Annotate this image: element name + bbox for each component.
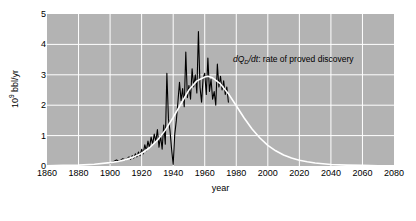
data-curves bbox=[47, 14, 394, 166]
series-line bbox=[110, 32, 228, 165]
x-tick-label: 1860 bbox=[37, 168, 57, 178]
x-tick-label: 2020 bbox=[289, 168, 309, 178]
y-axis-title: 109 bbl/yr bbox=[8, 49, 20, 129]
x-tick-label: 1920 bbox=[132, 168, 152, 178]
y-tick-label: 1 bbox=[41, 131, 46, 141]
y-tick-label: 5 bbox=[41, 9, 46, 19]
x-tick-label: 1980 bbox=[226, 168, 246, 178]
x-tick-label: 1900 bbox=[100, 168, 120, 178]
y-axis-title-text: 109 bbl/yr bbox=[10, 70, 20, 108]
annotation-math: dQD/dt bbox=[233, 54, 258, 64]
x-tick-label: 2060 bbox=[352, 168, 372, 178]
y-tick-label: 4 bbox=[41, 39, 46, 49]
y-tick-label: 2 bbox=[41, 100, 46, 110]
x-tick-label: 2040 bbox=[321, 168, 341, 178]
x-tick-label: 2000 bbox=[258, 168, 278, 178]
discovery-rate-chart: 1860188019001920194019601980200020202040… bbox=[0, 0, 416, 221]
series-line bbox=[47, 76, 394, 165]
y-tick-label: 0 bbox=[41, 161, 46, 171]
annotation-math-prefix: dQ bbox=[233, 54, 244, 64]
discovery-rate-annotation: dQD/dt: rate of proved discovery bbox=[233, 54, 354, 65]
y-tick-label: 3 bbox=[41, 70, 46, 80]
x-axis-title: year bbox=[47, 183, 394, 193]
x-tick-label: 1960 bbox=[195, 168, 215, 178]
x-tick-label: 1940 bbox=[163, 168, 183, 178]
plot-area bbox=[47, 14, 394, 166]
x-tick-label: 2080 bbox=[384, 168, 404, 178]
x-tick-label: 1880 bbox=[69, 168, 89, 178]
annotation-text: : rate of proved discovery bbox=[258, 54, 353, 64]
annotation-math-suffix: /dt bbox=[249, 54, 258, 64]
